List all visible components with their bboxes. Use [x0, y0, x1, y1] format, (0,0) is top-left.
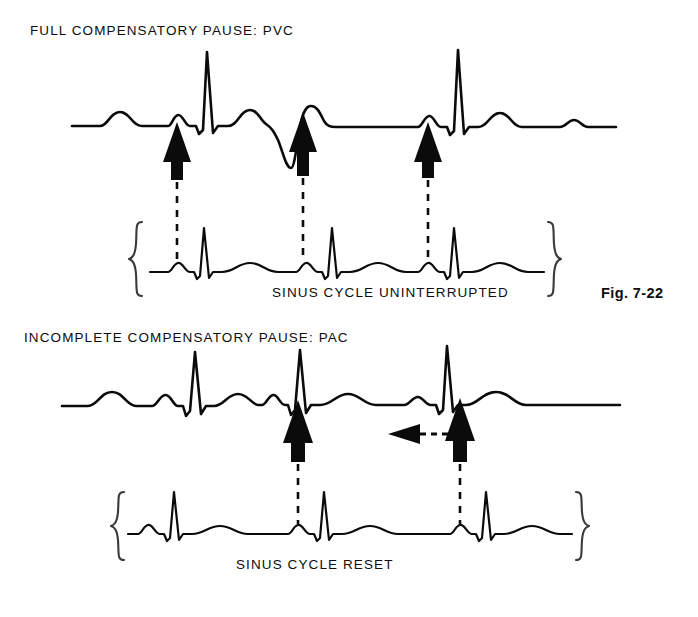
figure-canvas: FULL COMPENSATORY PAUSE: PVC: [0, 0, 698, 617]
pac-strip-brace-left: [111, 492, 124, 560]
pvc-sinus-trace: [150, 228, 544, 279]
pac-arrow-1: [283, 400, 313, 524]
pac-sinus-trace: [128, 492, 572, 541]
pvc-strip-label: SINUS CYCLE UNINTERRUPTED: [272, 285, 509, 300]
pac-reset-shift-arrow: [388, 424, 452, 444]
pac-strip-brace-right: [576, 492, 589, 560]
pvc-ecg-trace: [72, 50, 616, 168]
pvc-arrow-2: [289, 112, 317, 262]
pvc-panel-heading: FULL COMPENSATORY PAUSE: PVC: [30, 23, 294, 38]
figure-caption: Fig. 7-22: [601, 285, 663, 301]
pvc-strip-brace-right: [548, 222, 561, 296]
pac-strip-label: SINUS CYCLE RESET: [236, 557, 393, 572]
pac-arrow-2: [445, 398, 475, 524]
pac-panel-heading: INCOMPLETE COMPENSATORY PAUSE: PAC: [24, 330, 349, 345]
pvc-arrow-1: [163, 122, 191, 262]
pac-ecg-trace: [62, 346, 620, 416]
ecg-figure: FULL COMPENSATORY PAUSE: PVC: [0, 0, 698, 617]
pvc-arrow-3: [414, 122, 442, 262]
pvc-strip-brace-left: [129, 222, 142, 296]
